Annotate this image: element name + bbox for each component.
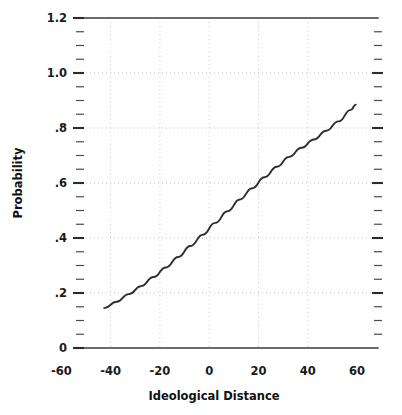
y-tick-labels: 1.2 1.0 .8 .6 .4 .2 0 bbox=[47, 11, 67, 355]
chart-figure: 1.2 1.0 .8 .6 .4 .2 0 -60 -40 -20 0 20 4… bbox=[0, 0, 402, 415]
x-tick-label-40: 40 bbox=[300, 364, 316, 378]
y-tick-label-0-2: .2 bbox=[55, 286, 67, 300]
x-axis-title: Ideological Distance bbox=[148, 389, 279, 403]
y-axis-title: Probability bbox=[11, 147, 25, 219]
x-tick-labels: -60 -40 -20 0 20 40 60 bbox=[51, 364, 365, 378]
x-tick-label-minus-20: -20 bbox=[150, 364, 171, 378]
y-tick-label-1-0: 1.0 bbox=[47, 66, 67, 80]
probability-line-chart: 1.2 1.0 .8 .6 .4 .2 0 -60 -40 -20 0 20 4… bbox=[0, 0, 402, 415]
x-tick-label-0: 0 bbox=[205, 364, 213, 378]
y-tick-label-0-6: .6 bbox=[55, 176, 67, 190]
y-tick-label-0-8: .8 bbox=[55, 121, 67, 135]
y-tick-label-0-4: .4 bbox=[55, 231, 67, 245]
y-tick-label-1-2: 1.2 bbox=[47, 11, 67, 25]
x-tick-label-20: 20 bbox=[250, 364, 266, 378]
y-tick-label-0: 0 bbox=[59, 341, 67, 355]
x-tick-label-minus-60: -60 bbox=[51, 364, 72, 378]
x-tick-label-minus-40: -40 bbox=[100, 364, 121, 378]
x-tick-label-60: 60 bbox=[349, 364, 365, 378]
